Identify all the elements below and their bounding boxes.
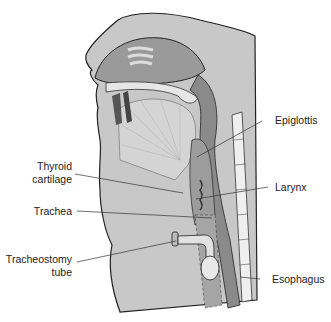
label-thyroid-cartilage-line2: cartilage [22, 174, 72, 185]
label-thyroid-cartilage-line1: Thyroid [28, 161, 72, 172]
label-tracheostomy-tube-line1: Tracheostomy [0, 254, 72, 265]
label-larynx: Larynx [275, 182, 307, 193]
label-trachea: Trachea [20, 206, 72, 217]
label-esophagus: Esophagus [272, 274, 325, 285]
label-tracheostomy-tube-line2: tube [20, 267, 72, 278]
label-epiglottis: Epiglottis [275, 115, 318, 126]
